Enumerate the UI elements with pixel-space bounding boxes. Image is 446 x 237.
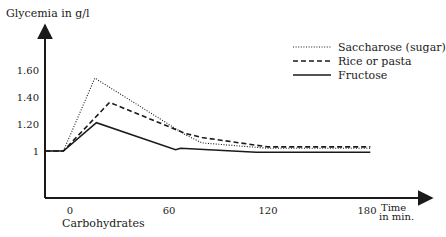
x-tick-label: 0 — [67, 205, 73, 216]
series-line-solid — [45, 123, 370, 153]
legend-label: Saccharose (sugar) — [338, 41, 446, 54]
x-axis-label-line2: in min. — [379, 211, 414, 222]
y-tick-label: 1.60 — [17, 65, 39, 76]
x-tick-label: 60 — [163, 205, 176, 216]
tick-labels: 11.201.401.60060120180 — [17, 65, 377, 216]
y-tick-label: 1 — [33, 146, 39, 157]
y-axis-label: Glycemia in g/l — [6, 7, 90, 20]
glycemia-chart: 11.201.401.60060120180 Saccharose (sugar… — [0, 0, 446, 237]
x-tick-label: 180 — [357, 205, 376, 216]
y-tick-label: 1.40 — [17, 92, 39, 103]
legend: Saccharose (sugar)Rice or pastaFructose — [293, 41, 446, 82]
legend-label: Rice or pasta — [338, 55, 412, 68]
x-axis-annotation: Carbohydrates — [62, 217, 145, 230]
legend-label: Fructose — [338, 69, 387, 82]
series-line-dotted — [45, 78, 370, 151]
series-lines — [45, 78, 370, 152]
x-tick-label: 120 — [258, 205, 277, 216]
series-line-dashed — [45, 102, 370, 151]
y-tick-label: 1.20 — [17, 119, 39, 130]
